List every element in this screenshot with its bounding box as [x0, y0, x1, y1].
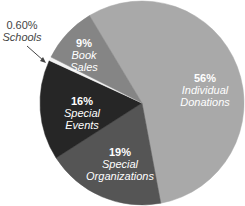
slice-name: Events — [52, 119, 112, 131]
slice-label-individual-donations: 56% Individual Donations — [168, 72, 242, 108]
slice-percent: 16% — [52, 95, 112, 107]
slice-name: Special — [52, 107, 112, 119]
slice-percent: 56% — [168, 72, 242, 84]
slice-percent: 0.60% — [0, 19, 44, 31]
slice-label-special-events: 16% Special Events — [52, 95, 112, 131]
slice-percent: 9% — [66, 37, 102, 49]
slice-name: Sales — [66, 61, 102, 73]
schools-callout-arrow — [27, 46, 46, 63]
slice-label-schools: 0.60% Schools — [0, 19, 44, 43]
slice-percent: 19% — [82, 146, 158, 158]
slice-name: Donations — [168, 96, 242, 108]
slice-label-book-sales: 9% Book Sales — [66, 37, 102, 73]
slice-name: Book — [66, 49, 102, 61]
slice-label-special-organizations: 19% Special Organizations — [82, 146, 158, 182]
slice-name: Special — [82, 158, 158, 170]
slice-name: Schools — [0, 31, 44, 43]
slice-name: Organizations — [82, 170, 158, 182]
slice-name: Individual — [168, 84, 242, 96]
